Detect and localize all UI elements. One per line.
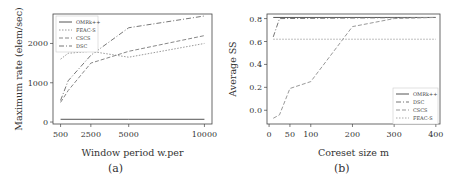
y-tick-label: 0.4 — [249, 60, 262, 69]
legend-entry: OMRk++ — [76, 19, 100, 25]
legend-entry: FEAC-S — [413, 115, 433, 121]
legend-entry: CSCS — [413, 107, 428, 113]
y-tick-label: 0.6 — [249, 38, 262, 47]
x-tick-label: 5000 — [119, 130, 139, 139]
figure: 5002500500010000010002000Window period w… — [0, 0, 452, 185]
x-tick-label: 400 — [428, 130, 443, 139]
caption-a: (a) — [108, 162, 123, 175]
legend-entry: FEAC-S — [76, 27, 96, 33]
x-tick-label: 100 — [303, 130, 318, 139]
legend: OMRk++FEAC-SCSCSDSC — [56, 16, 100, 52]
legend-entry: OMRk++ — [413, 91, 437, 97]
y-tick-label: 0.2 — [249, 83, 262, 92]
chart-a-max-rate-vs-window-period: 5002500500010000010002000Window period w… — [0, 0, 226, 185]
x-tick-label: 2500 — [81, 130, 101, 139]
y-axis-label: Average SS — [227, 41, 238, 97]
x-axis-label: Coreset size m — [318, 147, 389, 158]
x-tick-label: 50 — [285, 130, 295, 139]
y-tick-label: 0 — [43, 118, 48, 127]
chart-b-average-ss-vs-coreset-size: 0501002003004000.00.20.40.60.8Coreset si… — [226, 0, 452, 185]
legend-entry: DSC — [76, 43, 87, 49]
legend-entry: DSC — [413, 99, 424, 105]
legend: OMRk++DSCCSCSFEAC-S — [393, 88, 438, 124]
x-tick-label: 200 — [345, 130, 360, 139]
x-tick-label: 300 — [387, 130, 402, 139]
y-tick-label: 0.0 — [249, 106, 262, 115]
caption-b: (b) — [334, 162, 350, 175]
y-tick-label: 2000 — [28, 39, 48, 48]
x-tick-label: 10000 — [192, 130, 217, 139]
y-axis-label: Maximum rate (elem/sec) — [13, 7, 24, 130]
legend-entry: CSCS — [76, 35, 91, 41]
series-dsc — [273, 17, 436, 36]
x-axis-label: Window period w.per — [81, 147, 184, 158]
x-tick-label: 500 — [53, 130, 68, 139]
y-tick-label: 1000 — [28, 79, 48, 88]
y-tick-label: 0.8 — [249, 15, 262, 24]
x-tick-label: 0 — [267, 130, 272, 139]
